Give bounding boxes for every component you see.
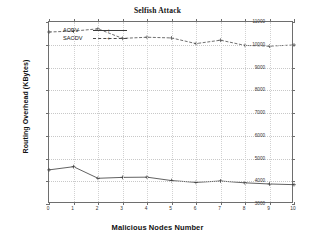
y-tick-mark: [292, 22, 295, 23]
y-tick-mark: [292, 159, 295, 160]
y-tick-mark: [46, 68, 49, 69]
y-tick-mark: [46, 22, 49, 23]
x-axis-label: Malicious Nodes Number: [0, 223, 315, 232]
x-tick-mark: [196, 202, 197, 205]
gridline-vertical: [147, 22, 148, 202]
chart-title: Selfish Attack: [0, 6, 315, 15]
data-point-marker: [292, 183, 296, 187]
x-tick-mark: [221, 202, 222, 205]
y-tick-mark: [292, 113, 295, 114]
x-tick-mark: [98, 19, 99, 22]
y-tick-label: 3000: [241, 201, 265, 206]
x-tick-mark: [123, 202, 124, 205]
y-tick-label: 7000: [241, 110, 265, 115]
gridline-vertical: [270, 22, 271, 202]
y-tick-label: 8000: [241, 87, 265, 92]
y-tick-mark: [46, 136, 49, 137]
y-tick-label: 6000: [241, 132, 265, 137]
gridline-vertical: [221, 22, 222, 202]
y-tick-mark: [46, 45, 49, 46]
legend-label-saodv: SAODV: [63, 34, 93, 42]
y-tick-label: 5000: [241, 155, 265, 160]
y-tick-label: 11000: [241, 19, 265, 24]
legend-label-aodv: AODV: [63, 26, 93, 34]
x-tick-label: 4: [138, 206, 154, 211]
x-tick-mark: [49, 202, 50, 205]
x-tick-mark: [294, 202, 295, 205]
y-tick-label: 10000: [241, 41, 265, 46]
x-tick-label: 8: [236, 206, 252, 211]
data-point-marker: [47, 30, 51, 34]
y-tick-label: 9000: [241, 64, 265, 69]
x-tick-mark: [172, 202, 173, 205]
gridline-vertical: [123, 22, 124, 202]
x-tick-label: 3: [114, 206, 130, 211]
x-tick-label: 1: [65, 206, 81, 211]
y-axis-label: Routing Overhead (KBytes): [22, 27, 29, 187]
gridline-vertical: [172, 22, 173, 202]
x-tick-label: 7: [212, 206, 228, 211]
x-tick-mark: [98, 202, 99, 205]
x-tick-label: 9: [261, 206, 277, 211]
x-tick-label: 2: [89, 206, 105, 211]
y-tick-mark: [46, 113, 49, 114]
y-tick-mark: [292, 68, 295, 69]
gridline-vertical: [98, 22, 99, 202]
data-point-marker: [47, 168, 51, 172]
x-tick-mark: [74, 19, 75, 22]
y-tick-mark: [292, 90, 295, 91]
x-tick-mark: [196, 19, 197, 22]
x-tick-mark: [123, 19, 124, 22]
x-tick-mark: [294, 19, 295, 22]
x-tick-label: 5: [163, 206, 179, 211]
y-tick-label: 4000: [241, 178, 265, 183]
chart-figure: Selfish Attack Routing Overhead (KBytes)…: [0, 0, 315, 241]
y-tick-mark: [46, 90, 49, 91]
y-tick-mark: [292, 136, 295, 137]
x-tick-mark: [147, 202, 148, 205]
y-tick-mark: [292, 181, 295, 182]
y-tick-mark: [292, 45, 295, 46]
x-tick-mark: [270, 202, 271, 205]
y-tick-mark: [46, 181, 49, 182]
x-tick-mark: [270, 19, 271, 22]
x-tick-mark: [49, 19, 50, 22]
x-tick-mark: [74, 202, 75, 205]
x-tick-label: 10: [285, 206, 301, 211]
x-tick-label: 6: [187, 206, 203, 211]
x-tick-mark: [221, 19, 222, 22]
chart-legend: AODV + SAODV +: [61, 25, 129, 43]
y-tick-mark: [46, 159, 49, 160]
x-tick-mark: [147, 19, 148, 22]
x-tick-label: 0: [40, 206, 56, 211]
gridline-vertical: [74, 22, 75, 202]
x-tick-mark: [172, 19, 173, 22]
gridline-vertical: [196, 22, 197, 202]
